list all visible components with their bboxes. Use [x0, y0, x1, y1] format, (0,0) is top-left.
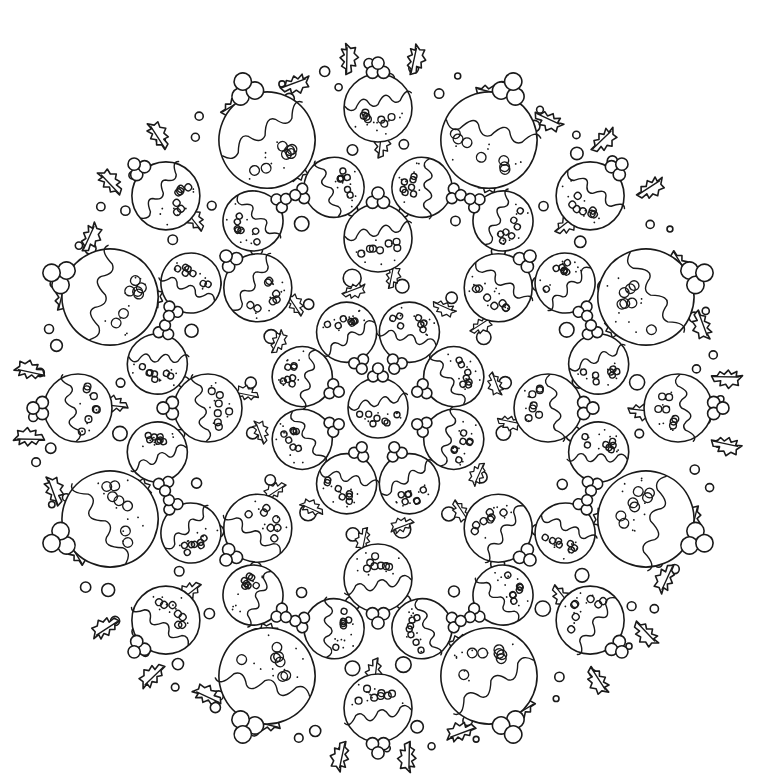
snow-bubble [335, 84, 342, 91]
snow-bubble [473, 736, 479, 742]
holly-leaf-icon [584, 666, 612, 696]
snow-bubble [294, 217, 308, 231]
snow-bubble [702, 307, 709, 314]
snow-bubble [396, 657, 412, 673]
snow-bubble [399, 140, 408, 149]
snow-bubble [434, 89, 443, 98]
snow-bubble [172, 658, 183, 669]
holly-leaf-icon [90, 614, 120, 642]
holly-leaf-icon [97, 169, 121, 195]
christmas-pudding-outer-small-ring [27, 374, 112, 442]
snow-bubble [706, 484, 714, 492]
snow-bubble [174, 567, 184, 577]
snow-bubble [575, 236, 586, 247]
snow-bubble [192, 478, 202, 488]
snow-bubble [304, 299, 314, 309]
snow-bubble [49, 501, 55, 507]
snow-bubble [32, 458, 41, 467]
snow-bubble [113, 426, 127, 440]
holly-leaf-icon [636, 173, 666, 201]
holly-leaf-icon [390, 740, 425, 775]
snow-bubble [455, 73, 461, 79]
snow-bubble [46, 443, 56, 453]
snow-bubble [709, 351, 717, 359]
snow-bubble [265, 475, 275, 485]
snow-bubble [477, 330, 491, 344]
snow-bubble [573, 131, 580, 138]
snow-bubble [294, 734, 303, 743]
christmas-pudding-outer-small-ring [644, 374, 729, 442]
snow-bubble [635, 429, 644, 438]
holly-leaf-icon [11, 420, 46, 455]
snow-bubble [81, 582, 91, 592]
snow-bubble [116, 378, 125, 387]
snow-bubble [345, 661, 360, 676]
snow-bubble [646, 220, 654, 228]
snow-bubble [171, 683, 179, 691]
snow-bubble [535, 601, 550, 616]
snow-bubble [168, 235, 177, 244]
snow-bubble [207, 201, 216, 210]
holly-leaf-icon [710, 360, 745, 395]
snow-bubble [690, 465, 699, 474]
snow-bubble [121, 206, 130, 215]
holly-leaf-icon [591, 127, 617, 151]
snow-bubble [428, 743, 435, 750]
snow-bubble [650, 605, 658, 613]
christmas-pudding-center [348, 363, 408, 438]
christmas-pudding-outer-small-ring [344, 674, 412, 759]
snow-bubble [297, 587, 307, 597]
snow-bubble [449, 586, 460, 597]
snow-bubble [185, 324, 198, 337]
holly-leaf-icon [139, 664, 165, 688]
snow-bubble [51, 340, 63, 352]
snow-bubble [557, 479, 567, 489]
holly-leaf-icon [710, 428, 745, 463]
snow-bubble [45, 325, 54, 334]
coloring-page-canvas [0, 0, 760, 783]
snow-bubble [555, 672, 564, 681]
holly-leaf-icon [143, 120, 171, 150]
snow-bubble [347, 145, 358, 156]
snow-bubble [191, 133, 199, 141]
snow-bubble [571, 147, 583, 159]
holly-leaf-icon [330, 41, 365, 76]
snow-bubble [97, 202, 105, 210]
holly-leaf-icon [323, 740, 358, 775]
snow-bubble [204, 609, 214, 619]
snow-bubble [575, 568, 589, 582]
holly-leaf-icon [12, 353, 47, 388]
snow-bubble [411, 721, 423, 733]
holly-leaf-icon [398, 42, 433, 77]
snow-bubble [630, 375, 645, 390]
holly-leaf-icon [634, 621, 658, 647]
snow-bubble [102, 584, 115, 597]
snow-bubble [627, 602, 636, 611]
pudding-mandala [0, 0, 760, 783]
snow-bubble [537, 106, 544, 113]
snow-bubble [692, 365, 700, 373]
christmas-pudding-outer-small-ring [344, 57, 412, 142]
snow-bubble [553, 696, 559, 702]
snow-bubble [310, 725, 321, 736]
snow-bubble [446, 292, 457, 303]
snow-bubble [451, 216, 460, 225]
snow-bubble [75, 242, 82, 249]
snow-bubble [539, 202, 548, 211]
snow-bubble [320, 66, 330, 76]
snow-bubble [559, 323, 574, 338]
snow-bubble [667, 226, 673, 232]
snow-bubble [195, 112, 203, 120]
